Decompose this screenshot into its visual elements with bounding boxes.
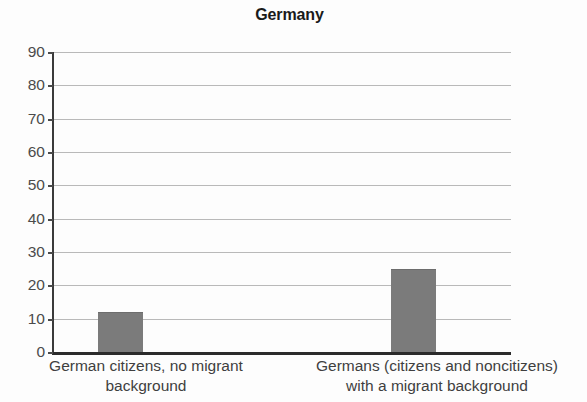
y-tick-label: 30 — [28, 244, 45, 260]
y-axis-line — [52, 52, 54, 352]
y-tick-mark — [48, 85, 53, 87]
category-label-line: with a migrant background — [292, 376, 582, 396]
y-tick-label: 90 — [28, 44, 45, 60]
y-tick-label: 70 — [28, 111, 45, 127]
gridline — [54, 252, 511, 253]
y-tick-mark — [48, 219, 53, 221]
y-tick-mark — [48, 252, 53, 254]
y-tick-label: 20 — [28, 278, 45, 294]
bar — [98, 312, 143, 352]
chart-title: Germany — [0, 6, 587, 24]
y-tick-mark — [48, 352, 53, 354]
y-tick-mark — [48, 285, 53, 287]
gridline — [54, 219, 511, 220]
y-tick-mark — [48, 185, 53, 187]
y-tick-mark — [48, 152, 53, 154]
y-tick-label: 80 — [28, 78, 45, 94]
y-tick-mark — [48, 319, 53, 321]
bar-chart: Germany 0102030405060708090 German citiz… — [0, 0, 587, 402]
category-label-line: background — [2, 376, 290, 396]
y-tick-label: 10 — [28, 311, 45, 327]
bar — [391, 269, 436, 352]
gridline — [54, 119, 511, 120]
gridline — [54, 185, 511, 186]
y-tick-label: 50 — [28, 178, 45, 194]
plot-area: 0102030405060708090 — [52, 52, 511, 352]
y-tick-label: 60 — [28, 144, 45, 160]
y-tick-mark — [48, 119, 53, 121]
x-axis-line — [52, 352, 511, 355]
category-labels: German citizens, no migrantbackgroundGer… — [0, 356, 587, 402]
category-label-line: German citizens, no migrant — [2, 356, 290, 376]
gridline — [54, 285, 511, 286]
gridline — [54, 152, 511, 153]
gridline — [54, 52, 511, 53]
y-tick-label: 40 — [28, 211, 45, 227]
y-tick-mark — [48, 52, 53, 54]
category-label: Germans (citizens and noncitizens)with a… — [292, 356, 582, 396]
category-label: German citizens, no migrantbackground — [2, 356, 290, 396]
category-label-line: Germans (citizens and noncitizens) — [292, 356, 582, 376]
gridline — [54, 85, 511, 86]
